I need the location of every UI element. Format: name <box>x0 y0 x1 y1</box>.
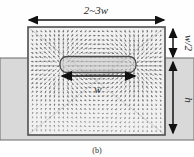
label-right-upper: w/2 <box>183 35 194 51</box>
figure-caption: (b) <box>92 146 102 155</box>
label-center-width: w <box>94 83 102 95</box>
label-right-lower: h <box>183 97 194 103</box>
figure-canvas: 2~3w w/2 h w (b) <box>0 0 194 157</box>
label-top-width: 2~3w <box>84 4 109 16</box>
inner-magnet-rect <box>60 57 136 73</box>
schematic-svg: 2~3w w/2 h w (b) <box>0 0 194 157</box>
